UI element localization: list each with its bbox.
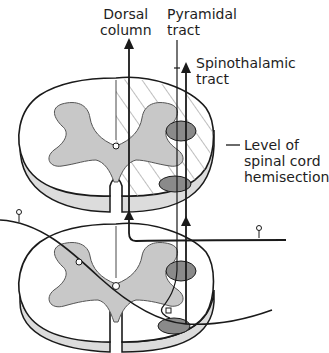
label-spinothalamic-tract: Spinothalamic tract — [196, 55, 296, 87]
lower-cord-segment — [19, 223, 214, 352]
upper-cord-segment — [19, 77, 214, 212]
label-hemisection: Level of spinal cord hemisection — [244, 137, 329, 185]
label-pyramidal-tract: Pyramidal tract — [167, 6, 237, 38]
label-dorsal-column: Dorsal column — [100, 6, 152, 38]
